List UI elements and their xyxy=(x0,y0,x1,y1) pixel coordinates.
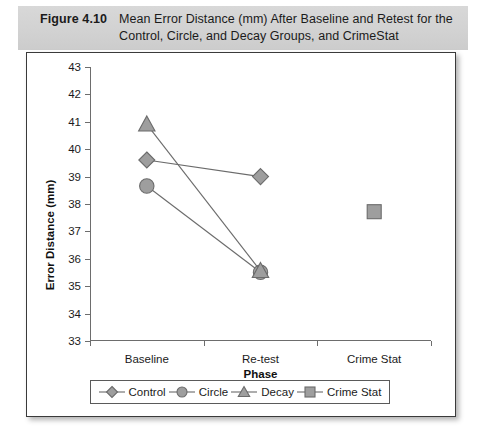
y-tick-label: 33 xyxy=(68,335,81,347)
marker-diamond xyxy=(139,152,155,168)
x-axis-title: Phase xyxy=(90,368,431,380)
y-tick-label: 39 xyxy=(68,171,81,183)
x-tick xyxy=(204,341,205,346)
y-tick xyxy=(85,94,90,95)
circle-icon xyxy=(169,385,195,399)
marker-circle xyxy=(140,179,154,193)
x-tick-label: Crime Stat xyxy=(347,353,401,365)
y-axis-title: Error Distance (mm) xyxy=(44,179,56,290)
legend-label: Decay xyxy=(261,386,294,398)
legend-item-control[interactable]: Control xyxy=(99,385,166,399)
triangle-icon xyxy=(231,385,257,399)
y-tick-label: 37 xyxy=(68,225,81,237)
figure-title: Mean Error Distance (mm) After Baseline … xyxy=(119,11,460,44)
legend-item-circle[interactable]: Circle xyxy=(169,385,228,399)
marker-triangle xyxy=(252,263,268,278)
series-crime-stat xyxy=(367,205,381,219)
y-tick-label: 42 xyxy=(68,88,81,100)
y-tick-label: 40 xyxy=(68,143,81,155)
figure-container: Figure 4.10 Mean Error Distance (mm) Aft… xyxy=(0,0,480,431)
legend-item-decay[interactable]: Decay xyxy=(231,385,294,399)
legend-label: Control xyxy=(129,386,166,398)
square-icon xyxy=(297,385,323,399)
series-plot xyxy=(90,67,431,341)
marker-diamond xyxy=(253,169,269,185)
x-tick xyxy=(90,341,91,346)
x-axis-line xyxy=(90,340,431,341)
chart-area: Error Distance (mm) Phase 43 42 41 40 39… xyxy=(27,53,455,416)
legend-item-crime-stat[interactable]: Crime Stat xyxy=(297,385,381,399)
x-tick xyxy=(317,341,318,346)
x-tick xyxy=(431,341,432,346)
legend-label: Circle xyxy=(199,386,228,398)
figure-caption: Figure 4.10 Mean Error Distance (mm) Aft… xyxy=(40,11,460,44)
y-tick xyxy=(85,177,90,178)
figure-caption-band: Figure 4.10 Mean Error Distance (mm) Aft… xyxy=(18,6,468,50)
y-tick-label: 41 xyxy=(68,116,81,128)
marker-circle xyxy=(253,265,267,279)
series-control xyxy=(139,152,269,185)
marker-triangle xyxy=(139,116,155,131)
figure-number: Figure 4.10 xyxy=(40,11,107,27)
y-tick xyxy=(85,259,90,260)
y-tick xyxy=(85,314,90,315)
plot-frame: 43 42 41 40 39 38 37 36 35 34 xyxy=(90,67,431,341)
diamond-icon xyxy=(99,385,125,399)
y-tick xyxy=(85,231,90,232)
series-decay xyxy=(139,116,269,278)
y-tick xyxy=(85,149,90,150)
legend-label: Crime Stat xyxy=(327,386,381,398)
y-tick xyxy=(85,67,90,68)
y-tick-label: 43 xyxy=(68,61,81,73)
chart-panel: Error Distance (mm) Phase 43 42 41 40 39… xyxy=(26,52,456,417)
y-tick-label: 36 xyxy=(68,253,81,265)
y-tick xyxy=(85,122,90,123)
y-tick xyxy=(85,286,90,287)
y-axis-line xyxy=(90,67,91,341)
x-tick-label: Baseline xyxy=(125,353,169,365)
y-tick-label: 38 xyxy=(68,198,81,210)
y-tick xyxy=(85,204,90,205)
x-tick-label: Re-test xyxy=(242,353,279,365)
chart-legend: Control Circle Decay xyxy=(90,380,390,404)
y-tick-label: 35 xyxy=(68,280,81,292)
y-tick-label: 34 xyxy=(68,308,81,320)
marker-square xyxy=(367,205,381,219)
series-circle xyxy=(140,179,268,280)
